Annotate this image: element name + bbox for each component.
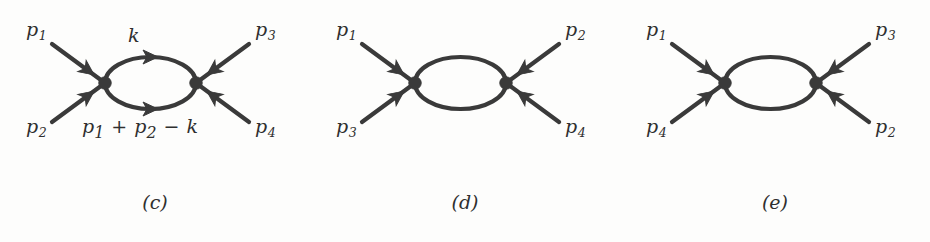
- momentum-label-p3: p3: [255, 20, 276, 43]
- momentum-label-p3: p3: [336, 117, 357, 140]
- momentum-label-p1: p1: [646, 20, 667, 43]
- vertex-left: [99, 77, 111, 89]
- external-leg-bottom-right: [506, 83, 559, 122]
- loop-arc-upper: [725, 57, 816, 83]
- diagram-panel-c: p1 p2 p3 p4 k p1 + p2 − k (c): [0, 0, 310, 242]
- momentum-label-p2: p2: [875, 117, 896, 140]
- external-leg-bottom-left: [362, 83, 415, 122]
- panel-caption-c: (c): [0, 193, 310, 212]
- external-leg-top-right: [816, 44, 869, 83]
- external-leg-top-right: [506, 44, 559, 83]
- momentum-label-p4: p4: [646, 117, 667, 140]
- panel-caption-d: (d): [310, 193, 620, 212]
- loop-arc-lower: [415, 83, 506, 109]
- vertex-left: [409, 77, 421, 89]
- external-leg-bottom-left: [672, 83, 725, 122]
- momentum-label-p4: p4: [565, 117, 586, 140]
- external-leg-top-left: [52, 44, 105, 83]
- external-leg-top-left: [672, 44, 725, 83]
- external-leg-bottom-right: [816, 83, 869, 122]
- panel-caption-e: (e): [620, 193, 930, 212]
- momentum-label-p4: p4: [255, 117, 276, 140]
- loop-arc-lower: [725, 83, 816, 109]
- external-leg-top-right: [196, 44, 249, 83]
- diagram-panel-d: p1 p3 p2 p4 (d): [310, 0, 620, 242]
- vertex-right: [190, 77, 202, 89]
- external-leg-bottom-right: [196, 83, 249, 122]
- momentum-label-p1: p1: [26, 20, 47, 43]
- diagram-panel-e: p1 p4 p3 p2 (e): [620, 0, 930, 242]
- loop-momentum-label-k: k: [128, 26, 140, 45]
- loop-momentum-label-expression: p1 + p2 − k: [82, 117, 198, 141]
- feynman-figure-sheet: p1 p2 p3 p4 k p1 + p2 − k (c): [0, 0, 930, 242]
- vertex-right: [500, 77, 512, 89]
- momentum-label-p2: p2: [565, 20, 586, 43]
- external-leg-top-left: [362, 44, 415, 83]
- loop-arc-upper: [415, 57, 506, 83]
- momentum-label-p2: p2: [26, 117, 47, 140]
- vertex-right: [810, 77, 822, 89]
- vertex-left: [719, 77, 731, 89]
- momentum-label-p1: p1: [336, 20, 357, 43]
- momentum-label-p3: p3: [875, 20, 896, 43]
